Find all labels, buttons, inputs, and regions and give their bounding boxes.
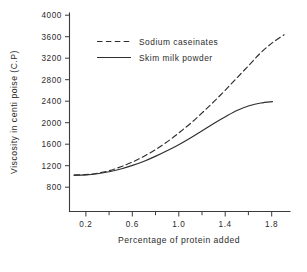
y-axis-tick-labels: 4000 3600 3200 2800 2400 2000 1600 1200 … xyxy=(41,11,62,192)
y-tick-label: 3600 xyxy=(41,33,62,42)
y-tick-label: 1200 xyxy=(41,162,62,171)
y-tick-label: 4000 xyxy=(41,11,62,20)
chart-figure: 4000 3600 3200 2800 2400 2000 1600 1200 … xyxy=(0,0,307,272)
y-tick-label: 2000 xyxy=(41,119,62,128)
legend-label-skim-milk-powder: Skim milk powder xyxy=(139,53,213,63)
y-tick-label: 1600 xyxy=(41,140,62,149)
x-tick-label: 1.8 xyxy=(265,220,278,229)
x-tick-label: 1.4 xyxy=(219,220,232,229)
y-tick-label: 2400 xyxy=(41,97,62,106)
x-axis-title: Percentage of protein added xyxy=(118,235,240,245)
y-tick-label: 800 xyxy=(47,183,62,192)
x-tick-label: 0.2 xyxy=(79,220,92,229)
y-tick-label: 2800 xyxy=(41,76,62,85)
viscosity-line-chart: 4000 3600 3200 2800 2400 2000 1600 1200 … xyxy=(0,0,307,272)
legend-label-sodium-caseinates: Sodium caseinates xyxy=(139,37,218,47)
x-tick-label: 1.0 xyxy=(172,220,185,229)
y-axis-title: Viscosity in centi poise (C.P) xyxy=(9,50,19,174)
y-tick-label: 3200 xyxy=(41,54,62,63)
x-tick-label: 0.6 xyxy=(126,220,139,229)
